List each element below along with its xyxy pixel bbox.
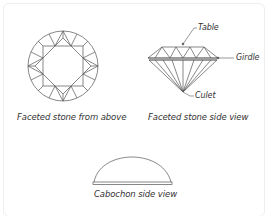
- gem-diagram: [0, 0, 273, 216]
- table-leader: [183, 28, 197, 44]
- caption-cabochon: Cabochon side view: [94, 189, 177, 199]
- culet-leader: [183, 92, 194, 96]
- faceted-stone-top-view: [28, 31, 98, 101]
- crown-facets: [155, 47, 211, 58]
- callout-girdle: Girdle: [236, 53, 259, 62]
- girdle-leader-dot: [217, 57, 219, 59]
- cabochon-dome: [94, 157, 171, 182]
- caption-top-view: Faceted stone from above: [17, 112, 126, 122]
- callout-culet: Culet: [195, 91, 215, 100]
- table-square-b: [35, 38, 91, 94]
- faceted-stone-side-view: [148, 28, 234, 96]
- callout-table: Table: [198, 23, 219, 32]
- cabochon-base: [93, 182, 172, 185]
- facet-lines: [28, 31, 98, 101]
- pavilion-facets: [155, 60, 211, 92]
- cabochon-side-view: [93, 157, 172, 185]
- caption-side-view: Faceted stone side view: [148, 112, 248, 122]
- table-leader-dot: [182, 43, 184, 45]
